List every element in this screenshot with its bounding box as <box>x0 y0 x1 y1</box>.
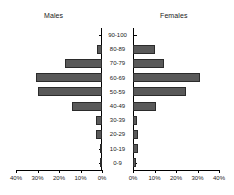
x-tick <box>176 170 177 173</box>
age-group-label: 10-19 <box>102 142 133 156</box>
x-tick-label: 10% <box>144 175 166 181</box>
x-tick <box>198 170 199 173</box>
age-group-label: 70-79 <box>102 56 133 70</box>
bar <box>133 73 200 82</box>
bar-row <box>133 28 219 42</box>
bar <box>133 102 156 111</box>
bar <box>133 87 186 96</box>
bar <box>72 102 102 111</box>
age-group-label: 30-39 <box>102 113 133 127</box>
bar-row <box>16 85 102 99</box>
age-group-label: 90-100 <box>102 28 133 42</box>
bar-row <box>133 113 219 127</box>
bar-row <box>133 71 219 85</box>
bar <box>133 59 164 68</box>
age-group-label: 40-49 <box>102 99 133 113</box>
bar <box>133 116 137 125</box>
bar <box>65 59 102 68</box>
age-group-label: 20-29 <box>102 127 133 141</box>
males-panel-title: Males <box>44 12 63 19</box>
x-tick-label: 0% <box>122 175 144 181</box>
bar-row <box>133 127 219 141</box>
bar-row <box>16 113 102 127</box>
bar-row <box>16 99 102 113</box>
x-tick-label: 20% <box>165 175 187 181</box>
bar-row <box>133 85 219 99</box>
bar-row <box>16 142 102 156</box>
x-tick-label: 40% <box>208 175 230 181</box>
bar-row <box>133 156 219 170</box>
x-tick <box>133 170 134 173</box>
bar <box>133 144 138 153</box>
bar-row <box>133 142 219 156</box>
bar-row <box>16 156 102 170</box>
age-group-labels: 90-10080-8970-7960-6950-5940-4930-3920-2… <box>102 28 133 170</box>
bar-row <box>16 42 102 56</box>
males-plot-area <box>16 28 102 170</box>
females-panel-title: Females <box>160 12 188 19</box>
bar-row <box>133 99 219 113</box>
age-group-label: 50-59 <box>102 85 133 99</box>
bar <box>133 158 136 167</box>
bar-row <box>133 56 219 70</box>
bar <box>133 130 138 139</box>
age-group-label: 60-69 <box>102 71 133 85</box>
bar-row <box>16 28 102 42</box>
bar <box>38 87 103 96</box>
females-plot-area <box>133 28 219 170</box>
age-group-label: 80-89 <box>102 42 133 56</box>
bar-row <box>133 42 219 56</box>
bar-row <box>16 56 102 70</box>
x-tick-label: 30% <box>187 175 209 181</box>
category-tick <box>99 35 102 36</box>
bar-row <box>16 71 102 85</box>
x-tick <box>155 170 156 173</box>
bar <box>133 45 155 54</box>
category-tick <box>134 35 137 36</box>
population-pyramid-chart: Males Females 90-10080-8970-7960-6950-59… <box>0 0 234 195</box>
bar-row <box>16 127 102 141</box>
x-tick <box>219 170 220 173</box>
age-group-label: 0-9 <box>102 156 133 170</box>
females-x-ticks: 0%10%20%30%40% <box>0 170 234 195</box>
bar <box>36 73 102 82</box>
